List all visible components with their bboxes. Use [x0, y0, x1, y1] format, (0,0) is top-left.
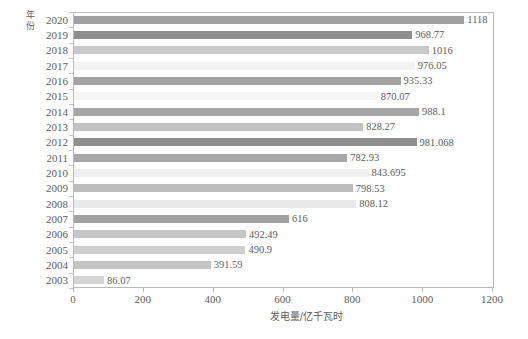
- x-tick-mark: [283, 288, 284, 292]
- category-label: 2010: [0, 167, 68, 179]
- bar[interactable]: [74, 276, 104, 284]
- bar-row: 200386.07: [0, 273, 528, 288]
- bar-row: 2016935.33: [0, 73, 528, 88]
- bar-value-label: 798.53: [356, 183, 385, 194]
- bar-track: 935.33: [74, 73, 493, 88]
- bar-track: 1016: [74, 43, 493, 58]
- category-label: 2008: [0, 198, 68, 210]
- bar[interactable]: [74, 138, 417, 146]
- x-tick-label: 0: [70, 293, 76, 306]
- category-label: 2007: [0, 213, 68, 225]
- bar[interactable]: [74, 169, 369, 177]
- x-tick-mark: [213, 288, 214, 292]
- bar-value-label: 1016: [432, 45, 453, 56]
- bar[interactable]: [74, 16, 464, 24]
- category-label: 2014: [0, 106, 68, 118]
- bar-track: 976.05: [74, 58, 493, 73]
- bar-value-label: 808.12: [359, 198, 388, 209]
- bar-value-label: 935.33: [404, 75, 433, 86]
- bar-track: 391.59: [74, 257, 493, 272]
- bar-row: 2004391.59: [0, 257, 528, 272]
- x-tick-label: 600: [274, 293, 291, 306]
- bar-value-label: 988.1: [422, 106, 446, 117]
- bar-row: 2011782.93: [0, 150, 528, 165]
- x-axis-title: 发电量/亿千瓦时: [0, 310, 528, 323]
- x-tick-label: 1000: [411, 293, 433, 306]
- bar[interactable]: [74, 246, 245, 254]
- bar-row: 2015870.07: [0, 89, 528, 104]
- category-label: 2020: [0, 14, 68, 26]
- bar-row: 20201118: [0, 12, 528, 27]
- bar-track: 616: [74, 211, 493, 226]
- bar-row: 2008808.12: [0, 196, 528, 211]
- bar-row: 2017976.05: [0, 58, 528, 73]
- bar[interactable]: [74, 77, 401, 85]
- x-tick-label: 400: [204, 293, 221, 306]
- bar-track: 798.53: [74, 181, 493, 196]
- bar-track: 843.695: [74, 165, 493, 180]
- bar[interactable]: [74, 154, 347, 162]
- bar[interactable]: [74, 261, 211, 269]
- bar-row: 2013828.27: [0, 119, 528, 134]
- bar[interactable]: [74, 230, 246, 238]
- category-label: 2006: [0, 228, 68, 240]
- bar-row: 2005490.9: [0, 242, 528, 257]
- bar-track: 490.9: [74, 242, 493, 257]
- bar[interactable]: [74, 62, 415, 70]
- bar-chart: 年份 202011182019968.77201810162017976.052…: [0, 0, 528, 339]
- bar[interactable]: [74, 108, 419, 116]
- bar-row: 2012981.068: [0, 135, 528, 150]
- category-label: 2016: [0, 75, 68, 87]
- bar[interactable]: [74, 123, 363, 131]
- bar[interactable]: [74, 215, 289, 223]
- x-axis-tick-labels: 020040060080010001200: [0, 293, 528, 309]
- bar-track: 492.49: [74, 227, 493, 242]
- x-tick-mark: [492, 288, 493, 292]
- category-label: 2017: [0, 60, 68, 72]
- bar-track: 981.068: [74, 135, 493, 150]
- bar[interactable]: [74, 200, 356, 208]
- category-label: 2015: [0, 90, 68, 102]
- x-tick-mark: [352, 288, 353, 292]
- category-label: 2012: [0, 136, 68, 148]
- bar[interactable]: [74, 92, 378, 100]
- bar-value-label: 391.59: [214, 259, 243, 270]
- bar-value-label: 843.695: [372, 167, 406, 178]
- bar-row: 2009798.53: [0, 181, 528, 196]
- bar-track: 1118: [74, 12, 493, 27]
- bar-value-label: 490.9: [248, 244, 272, 255]
- bar-value-label: 86.07: [107, 275, 131, 286]
- bar-value-label: 1118: [467, 14, 487, 25]
- category-label: 2013: [0, 121, 68, 133]
- bar-row: 20181016: [0, 43, 528, 58]
- x-tick-mark: [422, 288, 423, 292]
- bar-value-label: 616: [292, 213, 308, 224]
- x-tick-mark: [73, 288, 74, 292]
- x-tick-mark: [143, 288, 144, 292]
- x-tick-label: 200: [135, 293, 152, 306]
- bar-track: 782.93: [74, 150, 493, 165]
- bar-track: 86.07: [74, 273, 493, 288]
- category-label: 2003: [0, 274, 68, 286]
- bar-value-label: 968.77: [415, 29, 444, 40]
- bar-rows: 202011182019968.77201810162017976.052016…: [0, 12, 528, 288]
- bar-value-label: 492.49: [249, 229, 278, 240]
- bar-track: 808.12: [74, 196, 493, 211]
- category-label: 2009: [0, 182, 68, 194]
- bar[interactable]: [74, 31, 412, 39]
- category-label: 2018: [0, 44, 68, 56]
- bar[interactable]: [74, 46, 429, 54]
- bar-value-label: 870.07: [381, 91, 410, 102]
- bar-row: 2019968.77: [0, 27, 528, 42]
- bar-value-label: 981.068: [420, 137, 454, 148]
- category-label: 2011: [0, 152, 68, 164]
- bar-row: 2010843.695: [0, 165, 528, 180]
- bar-track: 968.77: [74, 27, 493, 42]
- bar-value-label: 828.27: [366, 121, 395, 132]
- bar-value-label: 782.93: [350, 152, 379, 163]
- bar[interactable]: [74, 184, 353, 192]
- category-label: 2005: [0, 244, 68, 256]
- category-label: 2004: [0, 259, 68, 271]
- bar-row: 2006492.49: [0, 227, 528, 242]
- bar-track: 828.27: [74, 119, 493, 134]
